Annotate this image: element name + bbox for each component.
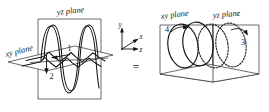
component-3-label: 3: [241, 38, 245, 47]
axis-label-x: x: [139, 33, 144, 41]
yz-plane-label-right-group: yz plane: [211, 9, 241, 20]
component-2-label: 2: [49, 72, 53, 81]
equals-sign: =: [133, 60, 140, 74]
yz-plane-label: yz plane: [55, 5, 85, 17]
yz-plane-label-group: yz plane: [55, 5, 85, 17]
figure-canvas: 1 2 yz plane xy plane y: [0, 0, 269, 112]
circular-components-diagram: 4 3 xy plane yz plane: [159, 9, 259, 82]
axis-label-y: y: [118, 21, 123, 29]
coordinate-axis-triad: y x z: [118, 21, 144, 54]
yz-plane-label-right: yz plane: [211, 9, 241, 20]
component-4-label: 4: [165, 25, 169, 34]
figure-root: 1 2 yz plane xy plane y: [0, 0, 269, 112]
xy-plane-label-right-group: xy plane: [159, 9, 189, 22]
linear-components-diagram: 1 2 yz plane xy plane: [3, 5, 113, 99]
xy-plane-label-right: xy plane: [159, 9, 189, 22]
axis-label-z: z: [139, 46, 143, 54]
component-1-label: 1: [67, 44, 71, 53]
